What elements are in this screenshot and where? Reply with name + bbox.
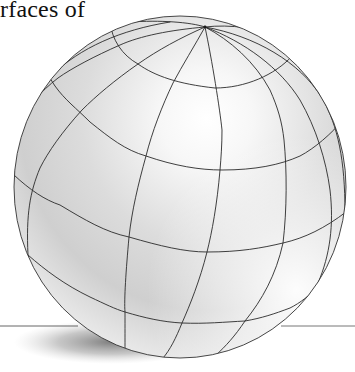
north-pole-point	[204, 26, 207, 29]
caption-text-fragment: rfaces of	[0, 0, 85, 23]
globe-illustration	[0, 0, 355, 372]
sphere	[14, 16, 346, 358]
